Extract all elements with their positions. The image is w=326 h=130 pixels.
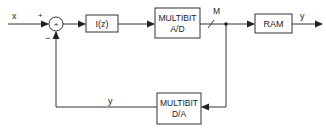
junction-dot — [224, 22, 228, 26]
plus-sign-label: + — [38, 11, 43, 20]
block-diagram: x + − + I(z) MULTIBIT A/D M RAM y MULTIB… — [0, 0, 326, 130]
dac-label-line2: D/A — [172, 109, 187, 119]
minus-sign-label: − — [45, 33, 50, 43]
bus-width-label: M — [213, 6, 220, 16]
feedback-return-line — [56, 32, 157, 107]
adc-label-line2: A/D — [170, 24, 184, 34]
dac-label-line1: MULTIBIT — [160, 98, 198, 108]
adc-label-line1: MULTIBIT — [158, 13, 196, 23]
integrator-label: I(z) — [96, 19, 109, 29]
summer-symbol: + — [54, 20, 59, 29]
feedback-label: y — [108, 96, 113, 106]
input-label: x — [12, 11, 17, 21]
output-label: y — [300, 11, 305, 21]
feedback-branch-line — [202, 24, 226, 107]
ram-label: RAM — [264, 19, 284, 29]
